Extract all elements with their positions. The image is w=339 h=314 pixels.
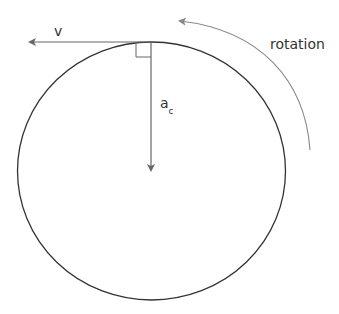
- acceleration-label-subscript: c: [169, 106, 174, 116]
- circular-motion-diagram: v rotation ac: [0, 0, 339, 314]
- acceleration-label: ac: [160, 96, 174, 114]
- acceleration-label-main: a: [160, 95, 169, 111]
- rotation-label: rotation: [270, 37, 325, 51]
- velocity-label: v: [54, 24, 62, 38]
- right-angle-marker: [136, 42, 151, 57]
